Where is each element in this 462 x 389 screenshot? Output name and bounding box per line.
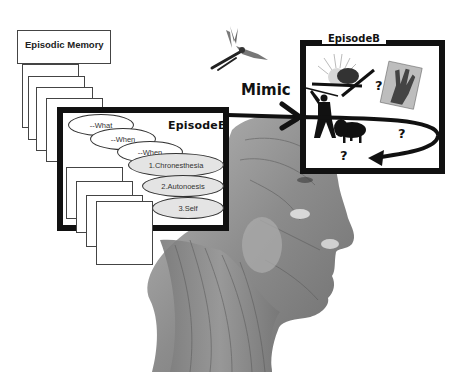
- question-mark: ?: [398, 126, 406, 141]
- question-mark: ?: [340, 148, 348, 163]
- question-mark: ?: [375, 78, 383, 93]
- hunter-silhouette-icon: [306, 88, 338, 138]
- episode-right-icons: [0, 0, 462, 389]
- sun-eclipse-icon: [312, 54, 374, 96]
- hand-photo-icon: [380, 61, 422, 109]
- bison-silhouette-icon: [334, 119, 366, 143]
